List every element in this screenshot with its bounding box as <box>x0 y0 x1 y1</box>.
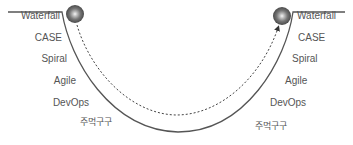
right-label-spiral: Spiral <box>292 53 318 65</box>
right-label-devops: DevOps <box>270 97 306 109</box>
left-label-ad-hoc: 주먹구구 <box>80 116 112 128</box>
left-label-waterfall: Waterfall <box>21 10 60 22</box>
right-label-agile: Agile <box>285 75 307 87</box>
left-label-agile: Agile <box>54 75 76 87</box>
left-label-spiral: Spiral <box>41 53 67 65</box>
right-label-case: CASE <box>298 32 325 44</box>
solid-u-curve <box>8 12 345 132</box>
left-label-devops: DevOps <box>53 97 89 109</box>
right-ball-icon <box>273 7 291 25</box>
right-label-waterfall: Waterfall <box>297 10 336 22</box>
left-label-case: CASE <box>35 32 62 44</box>
left-ball-icon <box>66 5 84 23</box>
right-label-ad-hoc: 주먹구구 <box>255 120 287 132</box>
